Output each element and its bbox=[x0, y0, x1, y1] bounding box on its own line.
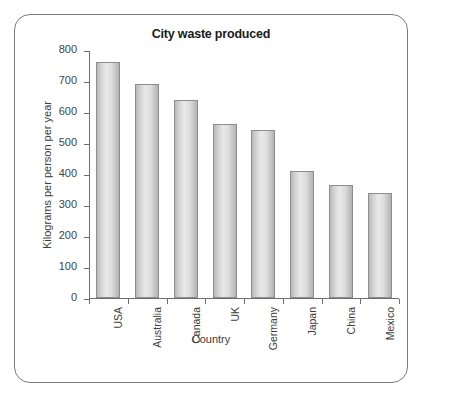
plot-area: 0100200300400500600700800 USAAustraliaCa… bbox=[89, 51, 399, 299]
bar bbox=[96, 62, 120, 298]
y-axis-title: Kilograms per person per year bbox=[41, 101, 53, 249]
x-axis-tick bbox=[360, 299, 361, 304]
x-axis-title: Country bbox=[15, 333, 407, 345]
bar bbox=[290, 171, 314, 297]
x-axis-tick-label: UK bbox=[229, 307, 241, 322]
x-axis-tick bbox=[399, 299, 400, 304]
y-axis-tick: 600 bbox=[84, 113, 89, 114]
x-axis-tick bbox=[128, 299, 129, 304]
y-axis-tick: 300 bbox=[84, 206, 89, 207]
y-axis-tick: 400 bbox=[84, 175, 89, 176]
x-axis-tick bbox=[205, 299, 206, 304]
bar bbox=[368, 193, 392, 298]
bar bbox=[329, 185, 353, 298]
y-axis-line bbox=[89, 51, 90, 299]
y-axis-tick-label: 400 bbox=[59, 167, 77, 179]
chart-title: City waste produced bbox=[15, 27, 407, 41]
y-axis-tick-label: 600 bbox=[59, 105, 77, 117]
bar bbox=[135, 84, 159, 298]
y-axis-tick-label: 800 bbox=[59, 43, 77, 55]
y-axis-tick: 500 bbox=[84, 144, 89, 145]
y-axis-tick-label: 300 bbox=[59, 198, 77, 210]
y-axis-tick: 200 bbox=[84, 237, 89, 238]
y-axis-tick: 700 bbox=[84, 82, 89, 83]
x-axis-tick bbox=[244, 299, 245, 304]
bar bbox=[251, 130, 275, 297]
chart-frame: City waste produced 01002003004005006007… bbox=[14, 14, 408, 383]
x-axis-tick-label: USA bbox=[112, 307, 124, 329]
y-axis-tick-label: 700 bbox=[59, 74, 77, 86]
y-axis-tick-label: 0 bbox=[71, 291, 77, 303]
y-axis-tick: 100 bbox=[84, 268, 89, 269]
bar bbox=[174, 100, 198, 297]
x-axis-tick bbox=[89, 299, 90, 304]
x-axis-tick bbox=[322, 299, 323, 304]
x-axis-tick bbox=[167, 299, 168, 304]
x-axis-tick-label: China bbox=[345, 307, 357, 334]
y-axis-tick-label: 100 bbox=[59, 260, 77, 272]
y-axis-tick: 800 bbox=[84, 51, 89, 52]
y-axis-tick-label: 500 bbox=[59, 136, 77, 148]
bar bbox=[213, 124, 237, 298]
y-axis-tick-label: 200 bbox=[59, 229, 77, 241]
x-axis-tick bbox=[283, 299, 284, 304]
x-axis-tick-label: Japan bbox=[306, 307, 318, 336]
